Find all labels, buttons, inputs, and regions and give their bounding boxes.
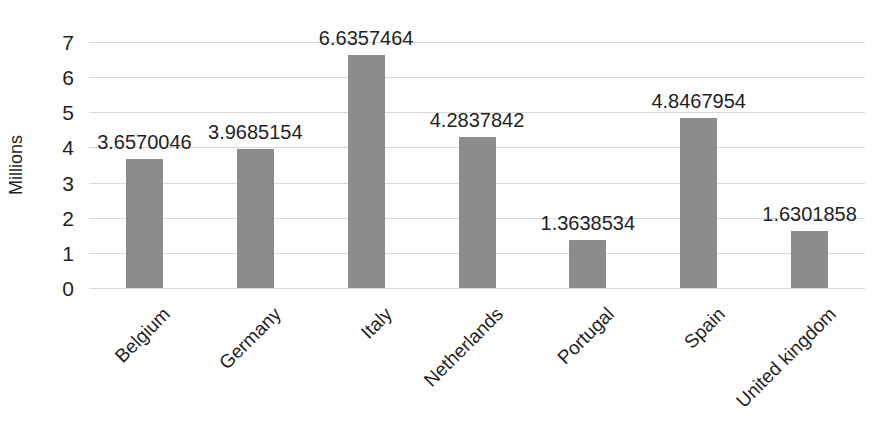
y-axis-tick-label: 4	[14, 137, 74, 158]
y-axis-tick-label: 2	[14, 207, 74, 228]
bar[interactable]	[680, 118, 717, 288]
y-axis-tick-label: 0	[14, 278, 74, 299]
bar-value-label: 3.9685154	[208, 122, 303, 142]
x-axis-category-label: Portugal	[554, 304, 617, 367]
bar-value-label: 3.6570046	[97, 132, 192, 152]
y-axis-tick-label: 6	[14, 67, 74, 88]
plot-area	[89, 42, 865, 288]
bar-value-label: 4.2837842	[430, 110, 525, 130]
x-axis-category-label: Spain	[680, 304, 728, 352]
x-axis-category-label: Netherlands	[421, 304, 507, 390]
bar[interactable]	[459, 137, 496, 288]
x-axis-category-label: Italy	[357, 304, 395, 342]
bar-value-label: 1.6301858	[762, 204, 857, 224]
y-axis-tick-label: 7	[14, 32, 74, 53]
bar[interactable]	[237, 149, 274, 288]
y-axis-tick-label: 3	[14, 172, 74, 193]
bars-layer	[89, 42, 865, 288]
x-axis-category-label: Germany	[216, 304, 285, 373]
bar[interactable]	[791, 231, 828, 288]
x-axis-category-label: United kingdom	[732, 304, 839, 411]
x-axis-category-labels: BelgiumGermanyItalyNetherlandsPortugalSp…	[89, 288, 865, 438]
bar-value-label: 4.8467954	[651, 91, 746, 111]
bar-chart: Millions 01234567 3.65700463.96851546.63…	[0, 0, 879, 441]
y-axis-tick-labels: 01234567	[0, 42, 82, 288]
bar[interactable]	[348, 55, 385, 288]
x-axis-category-label: Belgium	[112, 304, 174, 366]
bar[interactable]	[569, 240, 606, 288]
bar[interactable]	[126, 159, 163, 288]
y-axis-tick-label: 5	[14, 102, 74, 123]
bar-value-label: 6.6357464	[319, 28, 414, 48]
bar-value-label: 1.3638534	[541, 213, 636, 233]
y-axis-tick-label: 1	[14, 242, 74, 263]
